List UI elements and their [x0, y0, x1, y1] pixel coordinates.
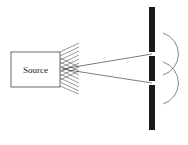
diffracted-wavefronts: [163, 33, 178, 104]
source-box: Source: [11, 52, 60, 87]
double-slit-diagram: Source: [0, 0, 188, 145]
barrier-with-two-slits: [149, 7, 155, 130]
emission-hatch: [60, 43, 79, 94]
source-label: Source: [23, 65, 48, 75]
